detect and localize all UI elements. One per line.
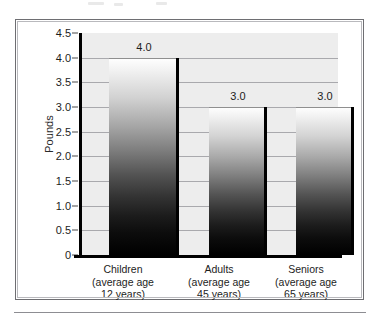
y-axis-line bbox=[79, 33, 82, 257]
bar-value-label: 3.0 bbox=[230, 90, 245, 102]
y-tick-mark bbox=[72, 82, 78, 83]
bar-chart: Pounds 4.54.03.53.02.52.01.51.00.50 4.03… bbox=[16, 20, 365, 299]
y-tick-label: 2.5 bbox=[56, 126, 71, 138]
y-tick-mark bbox=[72, 181, 78, 182]
y-tick-label: 4.5 bbox=[56, 27, 71, 39]
x-category-label-line: 65 years) bbox=[251, 288, 361, 301]
x-category-label-line: (average age bbox=[251, 276, 361, 289]
bar-top-edge bbox=[209, 107, 264, 108]
y-tick-label: 4.0 bbox=[56, 52, 71, 64]
x-category-label-line: Seniors bbox=[251, 263, 361, 276]
bar-top-edge bbox=[109, 58, 176, 59]
y-axis-title: Pounds bbox=[43, 94, 55, 174]
x-category-label: Seniors(average age65 years) bbox=[251, 263, 361, 301]
bar-value-label: 3.0 bbox=[317, 90, 332, 102]
y-tick-mark bbox=[72, 131, 78, 132]
x-category-label-line: 12 years) bbox=[68, 288, 178, 301]
bottom-rule bbox=[14, 312, 366, 313]
y-tick-label: 3.5 bbox=[56, 76, 71, 88]
y-tick-label: 0.5 bbox=[56, 224, 71, 236]
bar bbox=[296, 107, 354, 255]
y-tick-label: 0 bbox=[65, 249, 71, 261]
x-category-label: Children(average age12 years) bbox=[68, 263, 178, 301]
bar-top-edge bbox=[296, 107, 351, 108]
x-category-label-line: (average age bbox=[68, 276, 178, 289]
bar-value-label: 4.0 bbox=[136, 41, 151, 53]
y-tick-label: 1.0 bbox=[56, 200, 71, 212]
y-tick-mark bbox=[72, 230, 78, 231]
y-tick-label: 3.0 bbox=[56, 101, 71, 113]
y-tick-mark bbox=[72, 205, 78, 206]
x-category-label-line: Children bbox=[68, 263, 178, 276]
figure-frame: Pounds 4.54.03.53.02.52.01.51.00.50 4.03… bbox=[15, 19, 364, 300]
x-axis-line bbox=[74, 255, 342, 258]
y-tick-mark bbox=[72, 57, 78, 58]
y-tick-mark bbox=[72, 156, 78, 157]
y-tick-label: 1.5 bbox=[56, 175, 71, 187]
bar bbox=[209, 107, 267, 255]
bar bbox=[109, 58, 179, 255]
y-tick-label: 2.0 bbox=[56, 150, 71, 162]
scan-artifacts bbox=[0, 0, 380, 12]
y-tick-mark bbox=[72, 33, 78, 34]
y-tick-mark bbox=[72, 107, 78, 108]
